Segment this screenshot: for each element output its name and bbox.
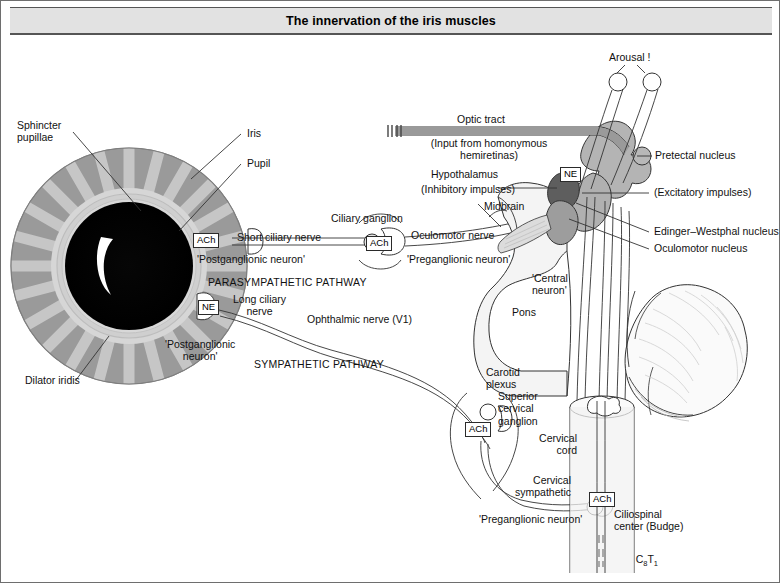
diagram-svg bbox=[1, 1, 780, 583]
label-ophthalmic-nerve: Ophthalmic nerve (V1) bbox=[307, 313, 412, 325]
label-cervical-cord: Cervical cord bbox=[517, 432, 577, 457]
label-postganglionic-neuron-symp: 'Postganglionic neuron' bbox=[165, 338, 235, 363]
label-hypothalamus: Hypothalamus bbox=[431, 168, 498, 180]
label-pretectal-nucleus: Pretectal nucleus bbox=[655, 149, 736, 161]
label-central-neuron: 'Central neuron' bbox=[532, 272, 568, 297]
transmitter-chip-ach-iris: ACh bbox=[193, 233, 219, 248]
label-ciliary-ganglion: Ciliary ganglion bbox=[331, 212, 403, 224]
label-oculomotor-nerve: Oculomotor nerve bbox=[411, 229, 494, 241]
label-hypothalamus-note: (Inhibitory impulses) bbox=[421, 183, 515, 195]
label-edinger-westphal-nucleus: Edinger–Westphal nucleus bbox=[654, 225, 779, 237]
label-ciliospinal-center: Ciliospinal center (Budge) bbox=[614, 508, 683, 533]
segment-t-subscript: 1 bbox=[654, 559, 658, 568]
label-optic-tract: Optic tract bbox=[457, 113, 505, 125]
label-cervical-sympathetic: Cervical sympathetic bbox=[481, 474, 571, 499]
label-pons: Pons bbox=[512, 306, 536, 318]
pupil-area bbox=[65, 202, 193, 330]
transmitter-chip-ach-scg: ACh bbox=[465, 422, 491, 437]
label-excitatory-impulses: (Excitatory impulses) bbox=[654, 186, 751, 198]
label-sphincter-pupillae: Sphincter pupillae bbox=[17, 119, 61, 144]
label-pupil: Pupil bbox=[247, 157, 270, 169]
transmitter-chip-ne-iris: NE bbox=[198, 300, 219, 315]
transmitter-chip-ach-cord: ACh bbox=[589, 492, 615, 507]
label-parasympathetic-pathway: PARASYMPATHETIC PATHWAY bbox=[208, 276, 367, 288]
transmitter-chip-ach-ciliary-ganglion: ACh bbox=[366, 236, 392, 251]
label-midbrain: Midbrain bbox=[484, 200, 524, 212]
label-spinal-segments: C8T1 bbox=[624, 541, 658, 582]
label-optic-tract-note: (Input from homonymous hemiretinas) bbox=[409, 137, 569, 162]
label-sympathetic-pathway: SYMPATHETIC PATHWAY bbox=[254, 358, 384, 370]
label-carotid-plexus: Carotid plexus bbox=[486, 366, 520, 391]
label-long-ciliary-nerve: Long ciliary nerve bbox=[233, 293, 286, 318]
label-postganglionic-neuron-para: 'Postganglionic neuron' bbox=[197, 253, 305, 265]
label-short-ciliary-nerve: Short ciliary nerve bbox=[237, 231, 321, 243]
label-superior-cervical-ganglion: Superior cervical ganglion bbox=[498, 390, 538, 427]
label-arousal: Arousal ! bbox=[609, 51, 650, 63]
label-preganglionic-neuron-symp: 'Preganglionic neuron' bbox=[479, 513, 582, 525]
label-oculomotor-nucleus: Oculomotor nucleus bbox=[654, 242, 747, 254]
figure-container: The innervation of the iris muscles bbox=[0, 0, 780, 583]
diagram-canvas bbox=[1, 1, 780, 583]
label-iris: Iris bbox=[247, 127, 261, 139]
label-dilator-iridis: Dilator iridis bbox=[25, 374, 80, 386]
label-preganglionic-neuron-para: 'Preganglionic neuron' bbox=[407, 253, 510, 265]
transmitter-chip-ne-hypothalamus: NE bbox=[560, 167, 581, 182]
